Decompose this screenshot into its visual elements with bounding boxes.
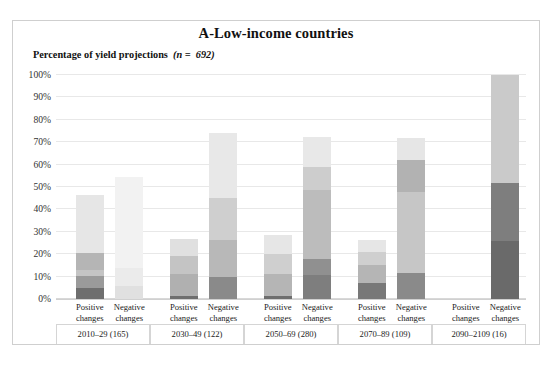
bar-negative-0 xyxy=(115,177,143,299)
bar-negative-2 xyxy=(303,137,331,299)
x-axis-label-line: Negative xyxy=(482,302,528,313)
bar-segment xyxy=(264,254,292,274)
gridline-70: 70% xyxy=(56,141,526,142)
bar-negative-4 xyxy=(491,75,519,299)
gridline-60: 60% xyxy=(56,164,526,165)
sample-size-n: (n = 692) xyxy=(173,49,215,60)
y-axis-tick-label: 40% xyxy=(33,203,51,214)
y-axis-tick-label: 90% xyxy=(33,91,51,102)
bar-segment xyxy=(358,265,386,283)
gridline-90: 90% xyxy=(56,96,526,97)
page-title: A-Low-income countries xyxy=(13,25,539,42)
bar-segment xyxy=(358,252,386,265)
bar-positive-1 xyxy=(170,239,198,299)
y-axis-tick-label: 10% xyxy=(33,270,51,281)
bar-segment xyxy=(170,239,198,257)
y-axis-tick-label: 20% xyxy=(33,248,51,259)
y-axis-tick-label: 50% xyxy=(33,181,51,192)
bar-segment xyxy=(76,253,104,270)
bar-segment xyxy=(76,276,104,288)
bar-segment xyxy=(358,240,386,252)
group-label-2030–49: 2030–49 (122) xyxy=(150,324,244,344)
group-label-2090–2109: 2090–2109 (16) xyxy=(432,324,526,344)
bar-segment xyxy=(491,75,519,183)
y-axis-tick-label: 70% xyxy=(33,136,51,147)
bar-segment xyxy=(264,235,292,254)
bar-positive-0 xyxy=(76,195,104,299)
x-axis-label-line: changes xyxy=(106,313,152,324)
bar-segment xyxy=(264,274,292,295)
figure-frame: A-Low-income countries Percentage of yie… xyxy=(12,20,540,345)
x-axis-label-line: changes xyxy=(294,313,340,324)
y-axis-tick-label: 80% xyxy=(33,113,51,124)
x-axis-label-negative-2: Negativechanges xyxy=(294,302,340,323)
plot-area: 0%10%20%30%40%50%60%70%80%90%100% xyxy=(56,75,526,299)
x-axis-group-labels: 2010–29 (165)2030–49 (122)2050–69 (280)2… xyxy=(56,324,526,344)
bar-segment xyxy=(209,240,237,277)
axis-baseline xyxy=(56,299,526,300)
bar-segment xyxy=(303,137,331,167)
group-label-2010–29: 2010–29 (165) xyxy=(56,324,150,344)
x-axis-label-negative-1: Negativechanges xyxy=(200,302,246,323)
bar-segment xyxy=(397,273,425,299)
bar-segment xyxy=(491,183,519,241)
bar-positive-3 xyxy=(358,240,386,299)
bar-segment xyxy=(209,133,237,198)
gridline-100: 100% xyxy=(56,74,526,75)
x-axis-label-line: changes xyxy=(482,313,528,324)
group-label-2050–69: 2050–69 (280) xyxy=(244,324,338,344)
gridline-80: 80% xyxy=(56,119,526,120)
x-axis-label-negative-3: Negativechanges xyxy=(388,302,434,323)
bar-segment xyxy=(209,198,237,239)
bar-segment xyxy=(209,277,237,299)
bar-segment xyxy=(115,268,143,286)
x-axis-label-negative-4: Negativechanges xyxy=(482,302,528,323)
bar-segment xyxy=(115,177,143,268)
bar-segment xyxy=(397,138,425,160)
y-axis-tick-label: 30% xyxy=(33,225,51,236)
y-axis-tick-label: 100% xyxy=(29,69,51,80)
y-axis-tick-label: 60% xyxy=(33,158,51,169)
x-axis-label-line: Negative xyxy=(294,302,340,313)
bar-segment xyxy=(358,283,386,299)
x-axis-label-line: Negative xyxy=(200,302,246,313)
group-label-2070–89: 2070–89 (109) xyxy=(338,324,432,344)
bar-segment xyxy=(303,259,331,276)
x-axis-label-line: Negative xyxy=(106,302,152,313)
bar-segment xyxy=(76,195,104,253)
bar-segment xyxy=(170,256,198,274)
bar-segment xyxy=(115,286,143,299)
x-axis-label-negative-0: Negativechanges xyxy=(106,302,152,323)
y-axis-title-main: Percentage of yield projections xyxy=(33,49,168,60)
bar-segment xyxy=(303,275,331,299)
bar-segment xyxy=(170,274,198,295)
y-axis-title: Percentage of yield projections (n = 692… xyxy=(33,49,215,60)
bar-segment xyxy=(76,288,104,299)
bar-segment xyxy=(303,190,331,258)
x-axis-label-line: Negative xyxy=(388,302,434,313)
bar-segment xyxy=(397,160,425,191)
bar-negative-1 xyxy=(209,133,237,299)
bar-negative-3 xyxy=(397,138,425,299)
x-axis-label-line: changes xyxy=(388,313,434,324)
bar-segment xyxy=(303,167,331,191)
bar-positive-2 xyxy=(264,235,292,299)
y-axis-tick-label: 0% xyxy=(38,293,51,304)
bar-segment xyxy=(491,241,519,299)
x-axis-label-line: changes xyxy=(200,313,246,324)
bar-segment xyxy=(397,192,425,274)
